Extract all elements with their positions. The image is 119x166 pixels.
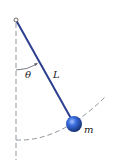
length-label: L — [52, 69, 60, 80]
pendulum-bob — [66, 116, 82, 132]
pivot-point — [14, 18, 18, 22]
angle-label: θ — [25, 69, 31, 80]
pendulum-diagram: θ L m — [0, 0, 119, 166]
mass-label: m — [84, 124, 93, 135]
